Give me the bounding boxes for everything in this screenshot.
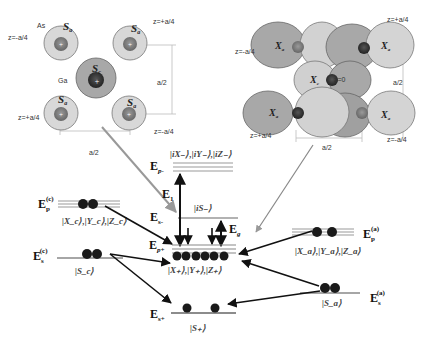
dim-vertical-r: a/2 (393, 79, 403, 86)
ep-plus-label: Ep+ (149, 238, 165, 254)
svg-text:+: + (59, 111, 63, 119)
es-minus-states: |iS₋⟩ (194, 203, 213, 213)
p-structure-to-ep-arrow (256, 145, 313, 232)
dim-horizontal-r: a/2 (322, 144, 332, 151)
z-label-bl: z=+a/4 (18, 114, 40, 121)
level-ep-a (292, 227, 354, 237)
electron (183, 304, 192, 313)
es-a-label: Es(a) (370, 289, 386, 307)
ep-plus-states: |X₊⟩,|Y₊⟩,|Z₊⟩ (168, 265, 222, 275)
z-label-tr-r: z=+a/4 (387, 16, 409, 23)
ep-a-label: Ep(a) (363, 225, 380, 243)
dim-horizontal: a/2 (89, 149, 99, 156)
z-label-center: z=0 (334, 76, 346, 83)
level-ep-c (58, 199, 120, 209)
svg-text:+: + (95, 77, 100, 86)
es-plus-label: Es+ (150, 307, 165, 323)
z-label-bl-r: z=+a/4 (250, 132, 272, 139)
band-diagram: + + + + + As Ga z=-a/4 z=+a/4 z=+a/4 z=-… (0, 0, 426, 346)
z-label-br: z=-a/4 (154, 128, 174, 135)
es-plus-states: |S₊⟩ (190, 323, 206, 333)
es-minus-label: Es- (150, 210, 164, 226)
orbital-s-a-2: Sa (131, 22, 140, 35)
orbital-s-a-3: Sa (58, 93, 67, 106)
e1-label: E1 (162, 187, 174, 203)
ep-a-states: |X_a⟩,|Y_a⟩,|Z_a⟩ (295, 246, 361, 256)
p-orbital-structure: Xa Xa Xc Xa Xa z=-a/4 z=+a/4 z=0 a/2 z=+… (235, 16, 415, 151)
as-atom-top-right: + (113, 26, 147, 60)
ep-c-label: Ep(c) (38, 195, 54, 213)
ga-label: Ga (58, 77, 67, 84)
dim-vertical: a/2 (157, 79, 167, 86)
svg-text:+: + (128, 41, 132, 49)
z-label-tr: z=+a/4 (153, 18, 175, 25)
level-ep-minus (173, 163, 233, 171)
orbital-s-a-1: Sa (63, 20, 72, 33)
eg-label: Eg (229, 222, 241, 238)
ep-c-states: |X_c⟩,|Y_c⟩,|Z_c⟩ (62, 216, 127, 226)
z-label-tl: z=-a/4 (8, 34, 28, 41)
as-atom-top-left: + (44, 26, 78, 60)
es-a-states: |S_a⟩ (322, 298, 342, 308)
as-label: As (37, 22, 46, 29)
z-label-br-r: z=-a/4 (387, 136, 407, 143)
electron (330, 283, 340, 293)
ep-minus-label: Ep- (150, 159, 165, 175)
es-c-label: Es(c) (33, 247, 48, 265)
s-orbital-structure: + + + + + As Ga z=-a/4 z=+a/4 z=+a/4 z=-… (8, 18, 176, 156)
electron (92, 249, 102, 259)
es-c-states: |S_c⟩ (75, 266, 94, 276)
electron (82, 249, 92, 259)
svg-text:+: + (127, 111, 131, 119)
electron (211, 304, 220, 313)
electron (320, 283, 330, 293)
z-label-tl-r: z=-a/4 (235, 48, 255, 55)
level-ep-plus (172, 245, 236, 261)
ep-minus-states: |iX₋⟩,|iY₋⟩,|iZ₋⟩ (170, 149, 232, 159)
svg-text:+: + (59, 41, 63, 49)
